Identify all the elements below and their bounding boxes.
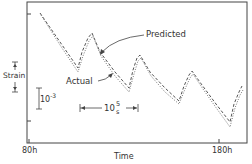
- arrowhead-icon: [133, 106, 137, 110]
- strain-scale-label: 10-3: [40, 92, 56, 104]
- strain-chart: Predicted Actual Strain 10-3 10 5 s 80h …: [0, 0, 252, 164]
- arrowhead-icon: [13, 87, 17, 90]
- time-scale-base: 10: [104, 103, 115, 113]
- actual-label: Actual: [66, 76, 93, 86]
- x-tick-label-end: 180h: [212, 146, 232, 155]
- predicted-label: Predicted: [146, 29, 186, 39]
- predicted-arrow: [102, 35, 144, 52]
- x-axis-label: Time: [113, 152, 134, 161]
- predicted-curve: [40, 13, 242, 122]
- arrowhead-icon: [81, 106, 85, 110]
- time-scale-exp: 5: [116, 100, 120, 108]
- y-axis-label: Strain: [3, 71, 25, 80]
- arrowhead-icon: [13, 64, 17, 67]
- plot-frame: [27, 2, 247, 143]
- time-scale-unit: s: [116, 108, 120, 116]
- x-tick-label-start: 80h: [22, 146, 37, 155]
- actual-curve: [41, 15, 243, 127]
